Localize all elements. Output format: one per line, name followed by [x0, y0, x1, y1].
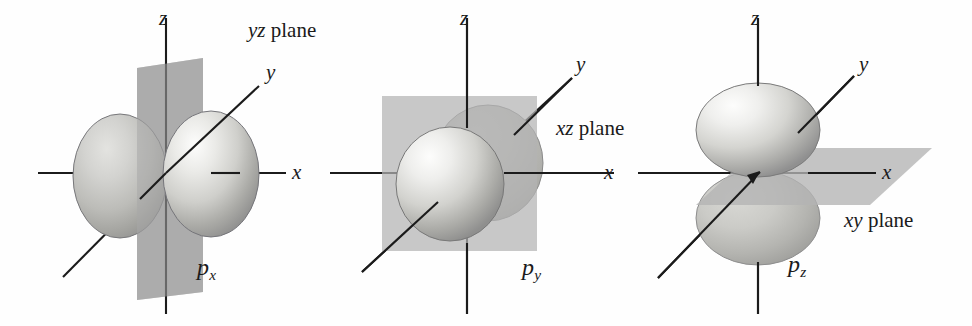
axis-label-y: y: [859, 54, 868, 75]
panel-py: z y x xz plane py: [324, 0, 648, 326]
panel-pz-graphic: [648, 0, 972, 326]
panel-pz: z y x xy plane pz: [648, 0, 972, 326]
orbital-label-py-p: p: [522, 254, 534, 280]
plane-label-yz-italic: yz: [248, 18, 266, 42]
orbital-label-pz-p: p: [788, 251, 800, 277]
orbital-label-py: py: [522, 255, 541, 279]
plane-label-xy-italic: xy: [844, 208, 863, 232]
orbital-label-px-sub: x: [209, 266, 216, 283]
panel-px: z y x yz plane px: [0, 0, 324, 326]
axis-label-z: z: [460, 8, 468, 29]
axis-label-y: y: [576, 54, 585, 75]
orbital-label-py-sub: y: [534, 266, 541, 283]
panel-py-graphic: [324, 0, 648, 326]
axis-label-z: z: [751, 8, 759, 29]
plane-label-xz-rest: plane: [574, 116, 625, 140]
plane-label-yz-rest: plane: [266, 18, 317, 42]
p-orbital-figure: z y x yz plane px: [0, 0, 972, 326]
axis-label-z: z: [159, 8, 167, 29]
orbital-label-px: px: [197, 255, 216, 279]
orbital-label-pz: pz: [788, 252, 806, 276]
axis-label-x: x: [882, 162, 891, 183]
axis-label-x: x: [604, 162, 613, 183]
plane-label-xy-rest: plane: [863, 208, 914, 232]
plane-label-xz-italic: xz: [556, 116, 574, 140]
lobe-front-py: [396, 127, 504, 241]
panel-px-graphic: [0, 0, 324, 326]
axis-label-y: y: [266, 62, 275, 83]
plane-label-yz: yz plane: [248, 20, 316, 41]
orbital-label-pz-sub: z: [800, 263, 806, 280]
orbital-label-px-p: p: [197, 254, 209, 280]
plane-label-xy: xy plane: [844, 210, 913, 231]
plane-label-xz: xz plane: [556, 118, 624, 139]
axis-label-x: x: [292, 162, 301, 183]
